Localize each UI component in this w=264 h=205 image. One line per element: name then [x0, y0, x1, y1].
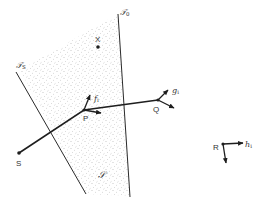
- point-x-label: X: [95, 36, 100, 44]
- vector-g-label: gi: [172, 87, 179, 96]
- point-p-label: P: [83, 115, 88, 123]
- diagram-canvas: [0, 0, 264, 205]
- vector-h-label: hi: [245, 141, 252, 150]
- vector-q-tangent-arrow: [158, 100, 174, 108]
- region-s-shading: [20, 14, 130, 196]
- vector-g-arrow: [158, 90, 168, 100]
- point-s-dot: [17, 151, 21, 155]
- point-p-dot: [82, 108, 85, 111]
- vector-f-label: fi: [94, 95, 99, 104]
- plane-ts-label: 𝒯S: [16, 62, 26, 71]
- point-q-label: Q: [153, 106, 159, 114]
- point-r-label: R: [213, 144, 219, 152]
- point-r-dot: [221, 142, 224, 145]
- point-q-dot: [156, 98, 159, 101]
- point-s-label: S: [16, 160, 21, 168]
- region-s-label: 𝒮: [98, 171, 105, 180]
- point-x-dot: [96, 45, 100, 49]
- vector-h-arrow: [223, 143, 243, 144]
- plane-t0-label: 𝒯0: [120, 9, 130, 18]
- vector-r-down-arrow: [223, 144, 226, 163]
